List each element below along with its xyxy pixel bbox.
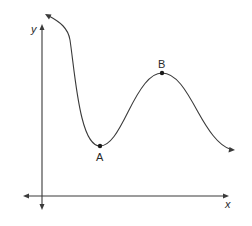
point-b-label: B [158, 58, 165, 70]
x-axis [23, 194, 229, 199]
curve-path [49, 16, 230, 149]
point-a-marker [98, 144, 102, 148]
point-a: A [96, 144, 104, 163]
point-b-marker [160, 71, 164, 75]
y-axis-label: y [30, 23, 38, 35]
y-axis-up-arrow-icon [40, 24, 45, 30]
y-axis-down-arrow-icon [40, 204, 45, 210]
function-graph: y x A B [0, 0, 252, 226]
x-axis-left-arrow-icon [23, 194, 29, 199]
point-a-label: A [96, 151, 104, 163]
function-curve [45, 14, 235, 153]
x-axis-label: x [224, 198, 231, 210]
y-axis [40, 24, 45, 210]
curve-end-arrow-icon [229, 147, 236, 153]
